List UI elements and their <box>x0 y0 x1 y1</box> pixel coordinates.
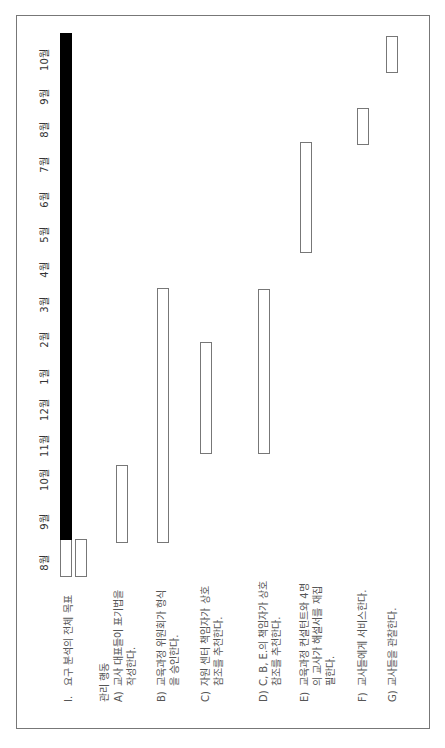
row-label-c: C) 자원 센터 책임자가 상호참조를 추천한다. <box>199 584 227 702</box>
month-label: 7월 <box>38 148 52 182</box>
month-label: 8월 <box>38 113 52 147</box>
month-label: 1월 <box>38 360 52 394</box>
bar-task-f <box>357 108 369 145</box>
bar-task-b <box>157 288 169 543</box>
month-label: 3월 <box>38 288 52 322</box>
row-text: 요구 분석의 전체 목표 <box>62 576 75 686</box>
bar-task-g <box>386 36 398 73</box>
row-text: C, B, E.의 책임자가 상호참조를 추천한다. <box>257 576 283 686</box>
month-label: 10월 <box>38 463 52 497</box>
row-label-g: G) 교사들을 관찰한다. <box>386 584 400 702</box>
month-label: 4월 <box>38 253 52 287</box>
bar-task-e <box>300 142 312 253</box>
bar-task-d <box>258 289 270 454</box>
gantt-chart: 8월 9월 10월 11월 12월 1월 2월 3월 4월 5월 6월 7월 8… <box>0 0 445 748</box>
month-label: 12월 <box>38 393 52 427</box>
row-key: C) <box>199 691 212 702</box>
row-key: A) <box>112 691 125 702</box>
month-label: 5월 <box>38 218 52 252</box>
month-label: 11월 <box>38 429 52 463</box>
row-label-e: E) 교육과정 컨설턴트와 4명의 교사가 해설서를 재집필한다. <box>298 584 340 702</box>
month-label: 9월 <box>38 505 52 539</box>
row-text: 교육과정 위원회가 형식을 승인한다. <box>155 576 181 686</box>
row-label-d: D) C, B, E.의 책임자가 상호참조를 추천한다. <box>257 584 285 702</box>
row-key: F) <box>356 692 369 702</box>
bar-goal-secondary <box>75 539 87 577</box>
row-label-goal: I. 요구 분석의 전체 목표 <box>62 584 76 702</box>
row-label-b: B) 교육과정 위원회가 형식을 승인한다. <box>155 584 183 702</box>
month-label: 6월 <box>38 183 52 217</box>
row-text: 교육과정 컨설턴트와 4명의 교사가 해설서를 재집필한다. <box>298 576 337 686</box>
bar-goal-white <box>60 539 72 577</box>
row-text: 교사들에게 서비스한다. <box>356 576 369 686</box>
row-key: G) <box>386 690 399 702</box>
row-text: 교사 대표들이 표기법을작성한다. <box>112 576 138 686</box>
row-key: I. <box>62 696 75 702</box>
section-title: 관리 행동 <box>96 663 111 702</box>
row-label-f: F) 교사들에게 서비스한다. <box>356 584 370 702</box>
bar-task-c <box>200 342 212 454</box>
bar-goal-black <box>60 33 72 540</box>
row-text: 교사들을 관찰한다. <box>386 576 399 686</box>
month-label: 10월 <box>38 43 52 77</box>
month-label: 2월 <box>38 323 52 357</box>
month-label: 8월 <box>38 546 52 580</box>
row-key: B) <box>155 691 168 702</box>
row-key: D) <box>257 690 270 702</box>
month-label: 9월 <box>38 80 52 114</box>
row-key: E) <box>298 692 311 702</box>
row-text: 자원 센터 책임자가 상호참조를 추천한다. <box>199 576 225 686</box>
row-label-a: A) 교사 대표들이 표기법을작성한다. <box>112 584 140 702</box>
bar-task-a <box>116 465 128 543</box>
